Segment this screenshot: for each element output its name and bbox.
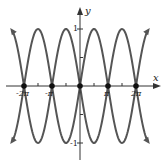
y-tick-label-1: 1	[73, 24, 78, 33]
x-tick-label-pi: π	[103, 89, 110, 98]
chart-svg: x y 1 -1 -2π -π π 2π	[0, 0, 165, 166]
x-axis-label: x	[153, 72, 159, 83]
axes	[6, 7, 161, 160]
y-tick-label-neg1: -1	[70, 139, 78, 148]
zero-point	[21, 83, 27, 89]
x-tick-label-neg2pi: -2π	[16, 89, 30, 98]
y-axis-label: y	[84, 5, 91, 16]
zero-point	[105, 83, 111, 89]
y-axis-arrow-icon	[77, 7, 83, 15]
x-tick-label-negpi: -π	[45, 89, 54, 98]
chart: x y 1 -1 -2π -π π 2π	[0, 0, 165, 166]
zero-point	[133, 83, 139, 89]
x-tick-label-2pi: 2π	[130, 89, 142, 98]
x-axis-arrow-icon	[153, 83, 161, 89]
zero-point	[77, 83, 83, 89]
zero-point	[49, 83, 55, 89]
